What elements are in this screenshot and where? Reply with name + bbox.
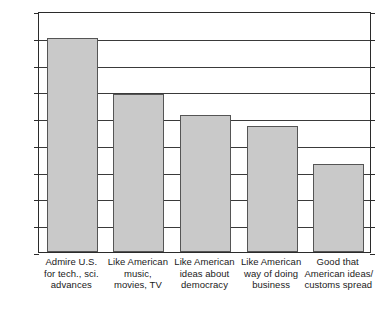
category-label-line: for tech., sci. (38, 268, 105, 280)
category-label: Like Americanideas aboutdemocracy (171, 256, 238, 291)
y-axis-tick-right (370, 174, 375, 175)
category-label-line: democracy (171, 279, 238, 291)
category-label-line: way of doing (238, 268, 305, 280)
category-label-line: movies, TV (105, 279, 172, 291)
y-axis-tick-right (370, 200, 375, 201)
category-label-line: music, (105, 268, 172, 280)
category-label-line: Like American (105, 256, 172, 268)
bar (113, 94, 164, 252)
bar (180, 115, 231, 252)
y-axis-tick-right (370, 254, 375, 255)
y-axis-tick (34, 254, 39, 255)
bar-chart: 0102030405060708090 Admire U.S.for tech.… (0, 0, 390, 315)
y-axis-tick-right (370, 40, 375, 41)
category-label: Admire U.S.for tech., sci.advances (38, 256, 105, 291)
category-label-line: customs spread (304, 279, 371, 291)
bar (47, 38, 98, 252)
category-label-line: Like American (238, 256, 305, 268)
y-axis-tick-right (370, 13, 375, 14)
bar (247, 126, 298, 252)
category-label-line: Admire U.S. (38, 256, 105, 268)
category-label: Good thatAmerican ideas/customs spread (304, 256, 371, 291)
bars-group (39, 13, 370, 252)
category-label-line: Good that (304, 256, 371, 268)
category-axis-labels: Admire U.S.for tech., sci.advancesLike A… (38, 256, 371, 312)
category-label-line: ideas about (171, 268, 238, 280)
category-label-line: American ideas/ (304, 268, 371, 280)
y-axis-tick-right (370, 120, 375, 121)
y-axis-tick-right (370, 147, 375, 148)
y-axis-tick-right (370, 67, 375, 68)
plot-area: 0102030405060708090 (38, 12, 371, 253)
y-axis-tick-right (370, 93, 375, 94)
bar (313, 164, 364, 252)
category-label-line: business (238, 279, 305, 291)
y-axis-tick-right (370, 227, 375, 228)
category-label: Like Americanway of doingbusiness (238, 256, 305, 291)
category-label-line: Like American (171, 256, 238, 268)
category-label-line: advances (38, 279, 105, 291)
category-label: Like Americanmusic,movies, TV (105, 256, 172, 291)
